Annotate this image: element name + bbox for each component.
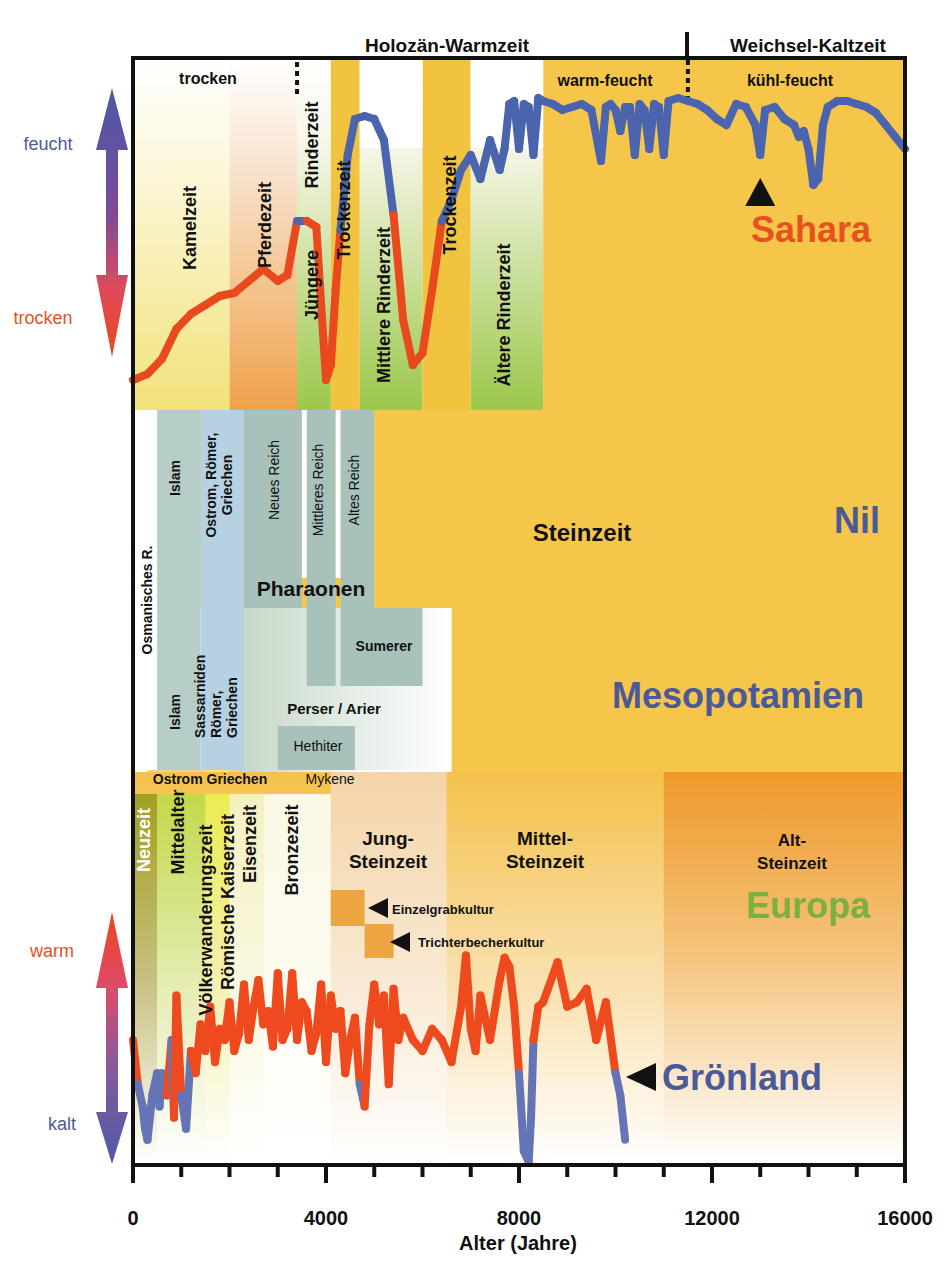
meso-block-sumerer-a (307, 608, 336, 686)
greenland-curve-segment (529, 1118, 531, 1162)
meso-block-label: Sumerer (356, 638, 413, 654)
x-axis-title: Alter (Jahre) (459, 1232, 577, 1254)
nile-background-label: Steinzeit (533, 519, 632, 546)
temperature-arrow-icon (96, 912, 128, 1164)
nile-block-label: Mittleres Reich (310, 444, 326, 537)
meso-block-label: Mykene (305, 771, 354, 787)
region-label-europa: Europa (746, 885, 871, 926)
phase-label-trocken: trocken (179, 70, 237, 87)
sahara-period-label: Kamelzeit (180, 186, 200, 270)
greenland-curve-segment (620, 1095, 625, 1139)
header-weichsel: Weichsel-Kaltzeit (730, 35, 887, 56)
europe-period-label: Eisenzeit (240, 805, 260, 883)
chart: trockenwarm-feuchtkühl-feuchtKamelzeitPf… (0, 0, 948, 1272)
label-line: Griechen (224, 677, 240, 738)
nile-group-label: Pharaonen (257, 577, 366, 600)
europe-period-label: Neuzeit (134, 808, 154, 872)
greenland-curve-segment (345, 1040, 350, 1073)
europe-period-label: Mittelalter (168, 789, 188, 874)
sahara-curve-segment (649, 104, 654, 149)
label-line: Griechen (219, 455, 235, 516)
phase-label-kuehl-feucht: kühl-feucht (747, 72, 834, 89)
x-tick-label: 12000 (684, 1207, 740, 1229)
label-line: Alt- (778, 831, 806, 850)
culture-label: Trichterbecherkultur (418, 935, 544, 950)
axis-label-warm: warm (29, 941, 74, 961)
region-label-groenland: Grönland (662, 1057, 822, 1098)
nile-separator (302, 410, 307, 578)
x-tick-label: 16000 (877, 1207, 933, 1229)
greenland-curve-segment (278, 973, 283, 1040)
greenland-curve-segment (355, 1018, 360, 1085)
nile-block-label: Altes Reich (346, 455, 362, 526)
axis-label-kalt: kalt (48, 1114, 76, 1134)
greenland-curve-segment (509, 967, 514, 1007)
greenland-curve-segment (466, 956, 471, 1029)
meso-block-label: Islam (167, 694, 183, 730)
culture-label: Einzelgrabkultur (392, 902, 494, 917)
sahara-period-label: Jüngere (302, 250, 322, 320)
europe-period-label: Bronzezeit (282, 804, 302, 895)
nile-block-label: Osmanisches R. (139, 546, 155, 655)
sahara-period-label: Trockenzeit (334, 160, 354, 259)
sahara-curve-segment (760, 110, 765, 155)
region-label-mesopotamien: Mesopotamien (612, 675, 864, 716)
label-line: Ostrom, Römer, (203, 432, 219, 537)
sahara-period-label: Pferdezeit (255, 182, 275, 268)
label-line: Mittel- (517, 828, 573, 849)
meso-block-label: Ostrom Griechen (153, 771, 267, 787)
sahara-curve-segment (533, 98, 538, 155)
label-line: Steinzeit (506, 851, 585, 872)
label-line: Steinzeit (349, 851, 428, 872)
moisture-arrow-icon (96, 88, 128, 357)
region-label-sahara: Sahara (751, 209, 872, 250)
greenland-curve-segment (147, 1095, 152, 1139)
header-holozaen: Holozän-Warmzeit (365, 35, 530, 56)
greenland-curve-segment (519, 1073, 524, 1151)
sahara-curve-segment (519, 104, 524, 149)
sahara-period-label: Ältere Rinderzeit (494, 243, 514, 386)
meso-block-label: Perser / Arier (287, 700, 381, 717)
greenland-curve-segment (365, 1024, 370, 1106)
label-line: Römer, (208, 691, 224, 738)
sahara-curve-segment (664, 101, 669, 155)
axis-label-trocken: trocken (13, 308, 72, 328)
x-tick-label: 8000 (497, 1207, 542, 1229)
sahara-period-label: Mittlere Rinderzeit (374, 227, 394, 383)
label-line: Jung- (362, 828, 414, 849)
sahara-white-gap (360, 58, 423, 148)
x-tick-label: 4000 (304, 1207, 349, 1229)
sahara-curve-segment (331, 290, 336, 365)
phase-label-warm-feucht: warm-feucht (556, 72, 653, 89)
europe-period-label: Völkerwanderungszeit (196, 824, 216, 1015)
europe-period-label: Römische Kaiserzeit (218, 814, 238, 990)
x-axis: 0400080001200016000Alter (Jahre) (127, 1165, 932, 1254)
nile-block-label: Neues Reich (266, 440, 282, 520)
greenland-curve-segment (531, 1040, 533, 1118)
meso-block-label: Hethiter (293, 738, 342, 754)
axis-label-feucht: feucht (23, 134, 72, 154)
culture-box-einzelgrab (331, 890, 365, 926)
greenland-curve-segment (514, 1007, 519, 1074)
label-line: Sassarniden (192, 655, 208, 738)
sahara-period-label: Rinderzeit (302, 101, 322, 188)
greenland-curve-segment (249, 1007, 254, 1040)
sahara-curve-segment (635, 104, 640, 155)
greenland-curve-segment (176, 996, 181, 1096)
greenland-curve-segment (533, 1007, 538, 1040)
nile-block-label: Islam (167, 460, 183, 496)
nile-block (157, 410, 200, 608)
label-line: Steinzeit (757, 854, 827, 873)
culture-box-trichterbecher (365, 924, 394, 958)
region-label-nil: Nil (834, 500, 880, 541)
sahara-curve-segment (818, 125, 823, 179)
sahara-curve-segment (601, 107, 606, 161)
x-tick-label: 0 (127, 1207, 138, 1229)
sahara-curve-segment (505, 104, 510, 149)
nile-separator (336, 410, 341, 578)
sahara-period-label: Trockenzeit (440, 155, 460, 254)
